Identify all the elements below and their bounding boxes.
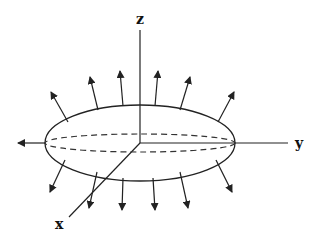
y-axis-label: y [294, 135, 304, 151]
normal-arrow-icon [90, 77, 98, 110]
normal-arrow-icon [180, 77, 190, 110]
ellipsoid-diagram: z y x [0, 0, 320, 239]
x-axis [69, 143, 140, 217]
normal-arrow-icon [120, 71, 123, 106]
normal-arrow-icon [122, 178, 123, 210]
normal-arrow-icon [155, 71, 158, 106]
normal-arrow-icon [51, 92, 68, 122]
x-axis-label: x [55, 216, 64, 232]
z-axis-label: z [136, 11, 144, 27]
normal-arrow-icon [216, 160, 232, 192]
normal-arrow-icon [218, 92, 234, 122]
normal-arrows [18, 71, 234, 210]
normal-arrow-icon [50, 160, 65, 192]
normal-arrow-icon [153, 178, 155, 210]
normal-arrow-icon [89, 172, 97, 208]
